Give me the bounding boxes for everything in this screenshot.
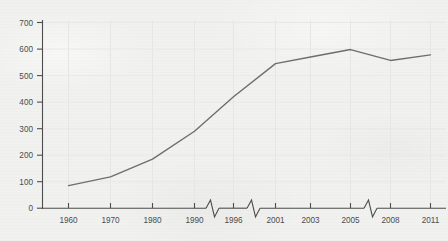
x-tick-label-2011: 2011 (422, 216, 440, 225)
horizontal-gridlines (43, 23, 446, 182)
line-chart: 700 600 500 400 300 200 100 0 (0, 0, 448, 241)
x-axis-tick-labels: 1960 1970 1980 1990 1996 2001 2003 2005 … (59, 216, 439, 225)
y-tick-label-600: 600 (19, 45, 33, 54)
y-tick-label-700: 700 (19, 19, 33, 28)
y-tick-label-400: 400 (19, 98, 33, 107)
vertical-gridlines (69, 20, 431, 208)
x-tick-label-2008: 2008 (381, 216, 400, 225)
x-tick-label-1990: 1990 (185, 216, 204, 225)
x-tick-label-2001: 2001 (266, 216, 285, 225)
y-tick-label-100: 100 (19, 178, 33, 187)
axis-break-symbol-2 (247, 200, 260, 217)
y-tick-label-0: 0 (28, 204, 33, 213)
y-axis-ticks (37, 23, 43, 209)
axis-break-symbol-1 (206, 200, 219, 217)
y-axis-tick-labels: 700 600 500 400 300 200 100 0 (19, 19, 33, 214)
x-tick-label-2005: 2005 (341, 216, 360, 225)
x-axis-line (43, 200, 447, 217)
y-tick-label-500: 500 (19, 72, 33, 81)
axis-break-symbol-3 (364, 200, 377, 217)
x-tick-label-1996: 1996 (224, 216, 243, 225)
y-tick-label-300: 300 (19, 125, 33, 134)
x-tick-label-2003: 2003 (301, 216, 320, 225)
data-series-line (69, 50, 431, 186)
x-tick-label-1980: 1980 (143, 216, 162, 225)
x-tick-label-1970: 1970 (101, 216, 120, 225)
x-tick-label-1960: 1960 (59, 216, 78, 225)
chart-figure: 700 600 500 400 300 200 100 0 (0, 0, 448, 241)
y-tick-label-200: 200 (19, 151, 33, 160)
